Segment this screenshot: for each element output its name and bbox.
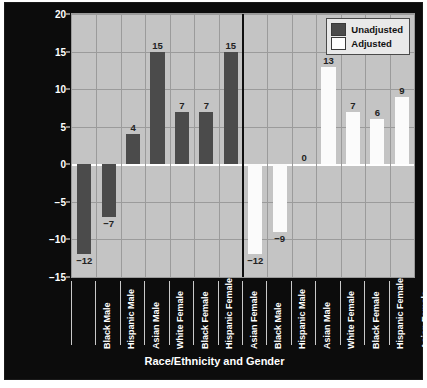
gridline-vertical: [145, 14, 146, 277]
gridline-vertical: [267, 14, 268, 277]
bar-value-label: −7: [103, 218, 114, 229]
group-divider-line: [242, 14, 244, 277]
legend-item-unadjusted[interactable]: Unadjusted: [331, 23, 403, 36]
bar-value-label: 0: [301, 152, 306, 163]
y-tick-mark: [66, 164, 70, 165]
y-tick-label: −10: [49, 234, 66, 245]
y-tick-mark: [66, 126, 70, 127]
bar[interactable]: [273, 164, 287, 232]
x-category-label: Hispanic Male: [266, 279, 290, 351]
bar-value-label: 9: [399, 85, 404, 96]
y-tick-mark: [66, 277, 70, 278]
y-axis-ticks: 20151050−5−10−15: [45, 11, 70, 291]
bar-value-label: 6: [375, 107, 380, 118]
gridline-vertical: [292, 14, 293, 277]
bar-value-label: 7: [179, 100, 184, 111]
x-axis-category-labels: Black MaleHispanic MaleAsian MaleWhite F…: [71, 279, 415, 351]
x-category-label: Asian Female: [389, 279, 413, 351]
x-category-label: Asian Male: [291, 279, 315, 351]
bar-value-label: 15: [152, 40, 163, 51]
y-tick-label: −15: [49, 272, 66, 283]
bar-value-label: 15: [225, 40, 236, 51]
bar-value-label: −9: [274, 233, 285, 244]
bar-value-label: 7: [204, 100, 209, 111]
y-tick-mark: [66, 51, 70, 52]
legend: Unadjusted Adjusted: [326, 18, 410, 55]
x-axis-title: Race/Ethnicity and Gender: [5, 355, 424, 367]
bar-value-label: 13: [323, 55, 334, 66]
x-category-label-text: Asian Female: [389, 279, 427, 351]
y-tick-label: −5: [55, 196, 66, 207]
x-category-label: Hispanic Female: [364, 279, 388, 351]
legend-label-unadjusted: Unadjusted: [351, 24, 403, 35]
gridline-vertical: [121, 14, 122, 277]
bar[interactable]: [370, 119, 384, 164]
legend-swatch-adjusted-icon: [331, 37, 346, 50]
y-tick-label: 10: [55, 84, 66, 95]
bar[interactable]: [346, 112, 360, 165]
bar[interactable]: [126, 134, 140, 164]
bar[interactable]: [321, 67, 335, 165]
bar[interactable]: [248, 164, 262, 254]
legend-label-adjusted: Adjusted: [351, 38, 392, 49]
x-category-label: Black Female: [169, 279, 193, 351]
gridline-vertical: [219, 14, 220, 277]
bar-value-label: 7: [350, 100, 355, 111]
gridline-vertical: [194, 14, 195, 277]
gridline-vertical: [316, 14, 317, 277]
legend-item-adjusted[interactable]: Adjusted: [331, 37, 403, 50]
y-tick-label: 15: [55, 46, 66, 57]
legend-swatch-unadjusted-icon: [331, 23, 346, 36]
y-axis-title: Differences in Rate of Finishing on Time…: [7, 3, 47, 288]
bar[interactable]: [224, 52, 238, 165]
bar[interactable]: [395, 97, 409, 165]
x-category-label: Black Male: [242, 279, 266, 351]
bar[interactable]: [77, 164, 91, 254]
x-category-label: White Female: [315, 279, 339, 351]
bar[interactable]: [150, 52, 164, 165]
bar-value-label: 4: [130, 122, 135, 133]
plot-area: −12−74157715−12−9013769 Unadjusted Adjus…: [71, 13, 415, 278]
gridline-horizontal: [72, 277, 414, 278]
bar[interactable]: [175, 112, 189, 165]
y-tick-mark: [66, 201, 70, 202]
x-category-label: Black Male: [71, 279, 95, 351]
x-category-label: Black Female: [340, 279, 364, 351]
gridline-vertical: [96, 14, 97, 277]
y-tick-label: 20: [55, 9, 66, 20]
chart-figure: Differences in Rate of Finishing on Time…: [4, 2, 423, 380]
x-category-label: Hispanic Female: [193, 279, 217, 351]
x-category-label: Hispanic Male: [95, 279, 119, 351]
gridline-vertical: [170, 14, 171, 277]
y-tick-mark: [66, 89, 70, 90]
y-tick-mark: [66, 14, 70, 15]
y-tick-mark: [66, 239, 70, 240]
x-category-label: Asian Male: [120, 279, 144, 351]
bar-value-label: −12: [76, 255, 92, 266]
x-category-label: White Female: [144, 279, 168, 351]
x-category-label: Asian Female: [218, 279, 242, 351]
bar-value-label: −12: [247, 255, 263, 266]
bar[interactable]: [102, 164, 116, 217]
bar[interactable]: [199, 112, 213, 165]
